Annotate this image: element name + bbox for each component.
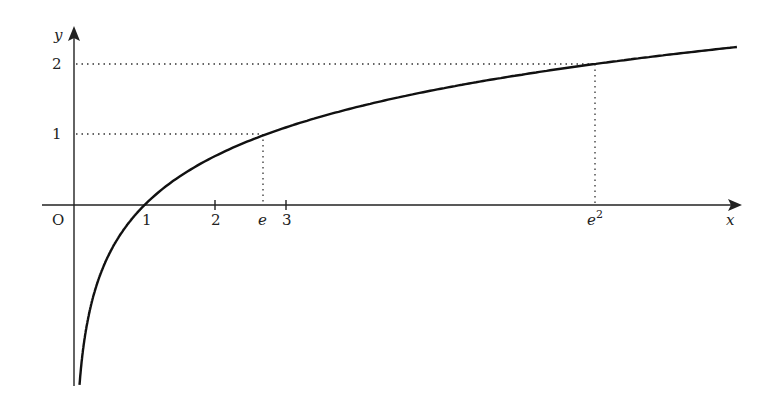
origin-label: O [52, 211, 64, 229]
y-axis-label: y [53, 26, 63, 44]
chart-canvas: y 2 1 O 1 2 e 3 e2 x [0, 0, 783, 406]
x-tick-label-2: 2 [211, 211, 221, 229]
x-tick-label-3: 3 [282, 211, 292, 229]
y-tick-label-1: 1 [52, 125, 62, 143]
y-tick-label-2: 2 [52, 55, 62, 73]
guide-lines [76, 64, 595, 204]
x-tick-label-1: 1 [142, 211, 152, 229]
chart: y 2 1 O 1 2 e 3 e2 x [0, 0, 783, 406]
ln-curve [80, 47, 737, 385]
x-tick-label-e2: e2 [587, 208, 603, 229]
x-axis-label: x [726, 211, 735, 229]
x-tick-label-e: e [258, 211, 267, 229]
